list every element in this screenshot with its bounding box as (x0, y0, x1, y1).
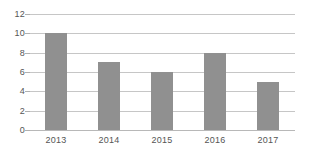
y-tick-label-8: 8 (3, 49, 25, 58)
y-tick-label-12: 12 (3, 10, 25, 19)
bar-2016 (204, 53, 226, 130)
y-tick-label-2: 2 (3, 107, 25, 116)
bar-chart: 12 10 8 6 4 2 0 2013 2014 2015 2016 2017 (0, 0, 312, 167)
y-tick-label-4: 4 (3, 87, 25, 96)
bar-2015 (151, 72, 173, 130)
bar-2014 (98, 62, 120, 130)
x-tick-label-2013: 2013 (33, 136, 79, 145)
x-tick-label-2014: 2014 (86, 136, 132, 145)
y-axis: 12 10 8 6 4 2 0 (0, 0, 25, 167)
y-tick-label-6: 6 (3, 68, 25, 77)
x-tick-label-2015: 2015 (139, 136, 185, 145)
x-axis: 2013 2014 2015 2016 2017 (30, 136, 295, 156)
x-tick-label-2017: 2017 (245, 136, 291, 145)
y-tick-label-10: 10 (3, 29, 25, 38)
x-tick-label-2016: 2016 (192, 136, 238, 145)
y-tick-label-0: 0 (3, 126, 25, 135)
bars-layer (30, 14, 295, 130)
tick-mark-0 (25, 130, 30, 131)
bar-2013 (45, 33, 67, 130)
bar-2017 (257, 82, 279, 130)
x-axis-baseline (30, 130, 295, 131)
